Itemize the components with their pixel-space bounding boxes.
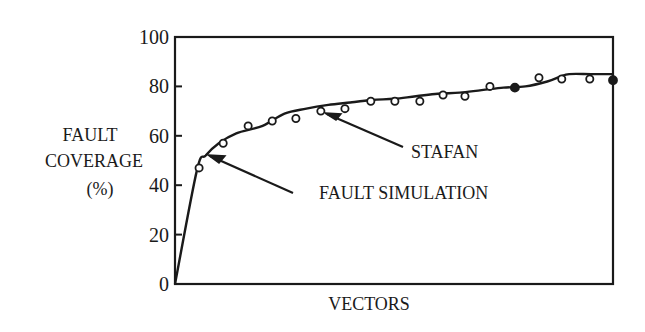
y-axis-title: FAULT COVERAGE (%): [45, 125, 143, 200]
y-axis-title-line2: COVERAGE: [45, 151, 143, 171]
data-point-marker: [609, 76, 617, 84]
y-axis-title-line3: (%): [87, 179, 114, 200]
data-point-marker: [292, 115, 299, 122]
data-point-marker: [439, 91, 446, 98]
stafan-annotation: STAFAN: [325, 113, 478, 162]
stafan-label: STAFAN: [411, 142, 478, 162]
fault-simulation-annotation: FAULT SIMULATION: [208, 155, 488, 203]
stafan-arrow: [327, 114, 403, 147]
data-point-marker: [269, 117, 276, 124]
data-point-marker: [220, 140, 227, 147]
y-axis-title-line1: FAULT: [62, 125, 117, 145]
data-point-marker: [317, 108, 324, 115]
y-tick-label: 80: [149, 75, 169, 97]
data-point-marker: [195, 164, 202, 171]
fault-simulation-arrow: [210, 156, 293, 193]
data-point-marker: [341, 105, 348, 112]
data-point-marker: [245, 122, 252, 129]
fault-simulation-label: FAULT SIMULATION: [319, 183, 488, 203]
plot-frame: [175, 37, 613, 284]
data-point-marker: [535, 74, 542, 81]
y-tick-label: 100: [139, 26, 169, 48]
data-point-marker: [367, 98, 374, 105]
data-point-marker: [461, 93, 468, 100]
y-axis-labels: 020406080100: [139, 26, 169, 295]
data-point-marker: [558, 75, 565, 82]
fault-simulation-markers: [195, 74, 617, 171]
data-point-marker: [416, 98, 423, 105]
y-tick-label: 60: [149, 125, 169, 147]
y-tick-label: 0: [159, 273, 169, 295]
fault-coverage-chart: 020406080100 FAULT COVERAGE (%) STAFAN F…: [0, 0, 645, 332]
data-point-marker: [511, 84, 519, 92]
y-tick-label: 40: [149, 174, 169, 196]
y-tick-label: 20: [149, 224, 169, 246]
x-axis-title: VECTORS: [328, 294, 410, 314]
data-point-marker: [486, 83, 493, 90]
data-point-marker: [391, 98, 398, 105]
data-point-marker: [586, 75, 593, 82]
